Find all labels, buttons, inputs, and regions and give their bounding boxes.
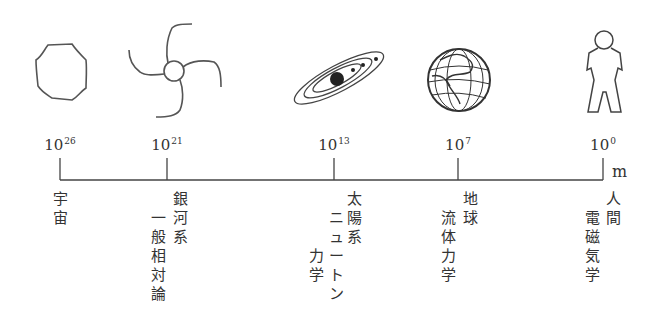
label-universe: 宇宙 bbox=[52, 190, 68, 228]
tick-label-1e7: 107 bbox=[445, 136, 471, 154]
label-general-relativity: 一般相対論 bbox=[150, 209, 166, 304]
tick-label-1e21: 1021 bbox=[151, 136, 183, 154]
tick-label-1e13: 1013 bbox=[318, 136, 350, 154]
label-human: 人間 bbox=[605, 190, 621, 228]
galaxy-spiral-icon bbox=[129, 24, 221, 117]
tick-label-1e0: 100 bbox=[590, 136, 616, 154]
label-fluid-dynamics: 流体力学 bbox=[440, 209, 456, 285]
universe-blob-icon bbox=[36, 44, 86, 100]
label-earth: 地球 bbox=[462, 190, 478, 228]
unit-label: m bbox=[612, 162, 627, 181]
solar-system-icon bbox=[289, 43, 390, 113]
label-galaxy: 銀河系 bbox=[172, 190, 188, 247]
scale-diagram: 1026 1021 1013 107 100 m 宇宙 銀河系 一般相対論 太陽… bbox=[0, 0, 656, 316]
label-solar-system: 太陽系 bbox=[346, 190, 362, 247]
scale-axis bbox=[60, 158, 603, 180]
human-figure-icon bbox=[587, 31, 622, 112]
label-newtonian-mechanics: ニュートン力学 bbox=[328, 209, 344, 309]
tick-label-1e26: 1026 bbox=[44, 136, 76, 154]
earth-globe-icon bbox=[428, 49, 490, 111]
label-electromagnetism: 電磁気学 bbox=[584, 209, 600, 285]
